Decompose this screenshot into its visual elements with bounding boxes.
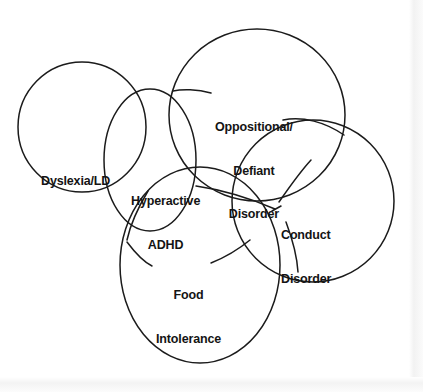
venn-label-conduct-disorder-line1: Conduct	[281, 228, 331, 243]
leader-line-odd-left	[173, 90, 211, 93]
venn-label-conduct-disorder-line2: Disorder	[281, 272, 331, 287]
venn-label-hyperactive-adhd-line1: Hyperactive	[131, 194, 200, 209]
venn-label-dyslexia-ld-line1: Dyslexia/LD	[41, 174, 110, 189]
venn-label-dyslexia-ld: Dyslexia/LD	[41, 145, 110, 218]
venn-label-conduct-disorder: Conduct Disorder	[281, 199, 331, 315]
venn-label-odd-line2: Defiant	[215, 164, 293, 179]
venn-label-food-intolerance-line1: Food	[156, 288, 221, 303]
page-edge-bottom	[0, 377, 423, 392]
page-edge-right	[409, 0, 423, 392]
venn-label-food-intolerance-line2: Intolerance	[156, 332, 221, 347]
venn-label-odd-line1: Oppositional/	[215, 120, 293, 135]
venn-label-hyperactive-adhd-line2: ADHD	[131, 238, 200, 253]
diagram-page: Dyslexia/LD Oppositional/ Defiant Disord…	[0, 0, 423, 392]
venn-label-food-intolerance: Food Intolerance	[156, 259, 221, 375]
